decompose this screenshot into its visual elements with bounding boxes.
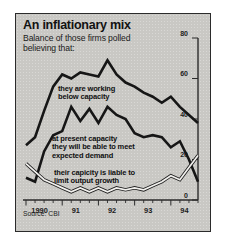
x-tick-label: 94 — [180, 206, 189, 215]
x-tick-label: 91 — [72, 206, 80, 215]
y-tick-label: 60 — [180, 70, 188, 77]
y-tick-label: 80 — [180, 30, 188, 37]
line-chart-svg: 020406080 199091929394 they are workingb… — [16, 14, 211, 232]
x-axis-ticks — [26, 200, 198, 206]
source-label: Source: CBI — [23, 210, 60, 217]
series-annotations: they are workingbelow capacityat present… — [52, 84, 136, 185]
x-tick-label: 93 — [144, 206, 152, 215]
chart-figure-panel: An inflationary mix Balance of those fir… — [15, 13, 211, 232]
y-tick-label: 0 — [184, 192, 188, 199]
x-tick-label: 92 — [108, 206, 116, 215]
series-annotation-1: expected demand — [52, 151, 114, 160]
series-annotation-0: below capacity — [58, 92, 110, 101]
chart-plot-area: 020406080 199091929394 they are workingb… — [16, 14, 210, 231]
series-line-0 — [26, 60, 198, 145]
series-annotation-2: limit output growth — [54, 176, 120, 185]
